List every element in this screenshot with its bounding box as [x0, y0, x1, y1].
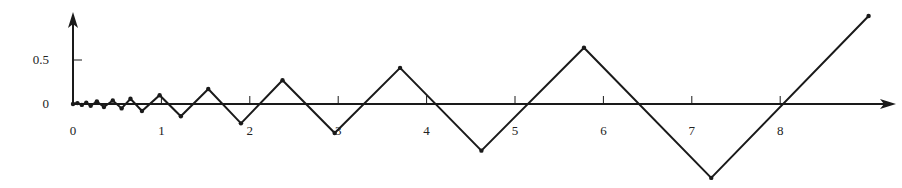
y-tick-label: 0	[43, 96, 50, 111]
x-tick-label: 4	[423, 123, 430, 138]
data-point	[80, 103, 84, 107]
data-point	[398, 66, 402, 70]
data-point	[102, 105, 106, 109]
zigzag-chart: 01234567800.5	[0, 0, 902, 188]
data-point	[128, 97, 132, 101]
x-tick-label: 7	[689, 123, 696, 138]
x-tick-label: 5	[512, 123, 519, 138]
data-point	[280, 78, 284, 82]
data-point	[95, 99, 99, 103]
x-tick-label: 1	[158, 123, 165, 138]
data-point	[140, 109, 144, 113]
axes	[68, 12, 896, 109]
data-point	[71, 102, 75, 106]
data-point	[582, 45, 586, 49]
x-tick-label: 8	[777, 123, 784, 138]
data-point	[75, 101, 79, 105]
x-tick-label: 2	[247, 123, 254, 138]
data-point	[84, 100, 88, 104]
series-line	[73, 16, 869, 178]
data-point	[332, 131, 336, 135]
data-point	[111, 98, 115, 102]
data-point	[119, 106, 123, 110]
y-tick-label: 0.5	[33, 52, 49, 67]
data-point	[709, 176, 713, 180]
x-tick-label: 6	[600, 123, 607, 138]
x-tick-label: 0	[70, 123, 77, 138]
ticks: 01234567800.5	[33, 52, 784, 138]
data-point	[206, 87, 210, 91]
data-point	[179, 114, 183, 118]
data-point	[479, 148, 483, 152]
data-point	[866, 14, 870, 18]
data-point	[157, 93, 161, 97]
series-points	[71, 14, 871, 180]
data-point	[88, 104, 92, 108]
data-point	[239, 121, 243, 125]
